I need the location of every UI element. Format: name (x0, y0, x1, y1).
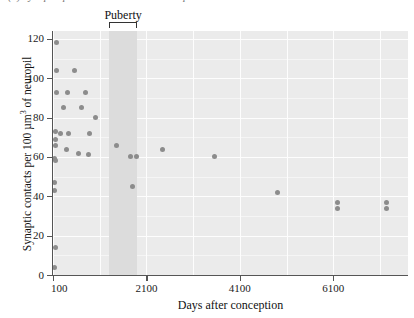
gridline-horizontal-minor (53, 137, 408, 138)
x-axis-tick-label: 2100 (135, 282, 157, 294)
data-point (72, 68, 77, 73)
data-point (212, 154, 217, 159)
x-axis-tick (53, 276, 54, 281)
data-point (83, 90, 88, 95)
y-axis-tick (47, 118, 52, 119)
gridline-vertical (146, 31, 147, 275)
data-point (87, 131, 92, 136)
data-point (54, 90, 59, 95)
y-axis-tick (47, 236, 52, 237)
gridline-vertical (193, 31, 194, 275)
y-axis-tick (47, 196, 52, 197)
gridline-vertical (100, 31, 101, 275)
gridline-vertical (380, 31, 381, 275)
plot-area (53, 31, 408, 275)
gridline-horizontal-minor (53, 255, 408, 256)
y-axis-tick (47, 39, 52, 40)
x-axis-tick (146, 276, 147, 281)
data-point (54, 40, 59, 45)
puberty-label: Puberty (104, 8, 141, 23)
y-axis-tick-label: 20 (4, 230, 44, 241)
data-point (335, 206, 340, 211)
data-point (53, 143, 58, 148)
data-point (58, 131, 63, 136)
x-axis-tick (333, 276, 334, 281)
gridline-vertical (333, 31, 334, 275)
data-point (54, 68, 59, 73)
data-point (160, 147, 165, 152)
y-axis-tick (47, 157, 52, 158)
data-point (53, 245, 58, 250)
gridline-horizontal-minor (53, 59, 408, 60)
data-point (76, 151, 81, 156)
data-point (93, 115, 98, 120)
data-point (384, 206, 389, 211)
scatter-plot-figure: Synaptic contacts per 100 µm3 of neuropi… (0, 0, 414, 318)
x-axis-tick (240, 276, 241, 281)
gridline-horizontal (53, 196, 408, 197)
gridline-horizontal (53, 236, 408, 237)
y-axis-tick-label: 120 (4, 33, 44, 44)
gridline-horizontal (53, 118, 408, 119)
data-point (114, 143, 119, 148)
y-axis-tick (47, 78, 52, 79)
y-axis-tick-label: 0 (4, 270, 44, 281)
gridline-horizontal-minor (53, 216, 408, 217)
y-axis-tick-label: 40 (4, 191, 44, 202)
data-point (384, 200, 389, 205)
gridline-horizontal (53, 39, 408, 40)
puberty-bracket (109, 22, 137, 28)
y-axis-tick-label: 60 (4, 151, 44, 162)
data-point (61, 105, 66, 110)
data-point (53, 137, 58, 142)
y-axis-tick (47, 275, 52, 276)
x-axis-tick-label: 100 (51, 282, 68, 294)
data-point (130, 184, 135, 189)
data-point (79, 105, 84, 110)
data-point (335, 200, 340, 205)
y-axis-line (52, 31, 53, 276)
gridline-horizontal-minor (53, 98, 408, 99)
data-point (64, 147, 69, 152)
x-axis-line (52, 275, 408, 276)
gridline-horizontal (53, 78, 408, 79)
gridline-horizontal-minor (53, 177, 408, 178)
data-point (65, 90, 70, 95)
x-axis-tick-label: 4100 (229, 282, 251, 294)
x-axis-title: Days after conception (53, 298, 408, 313)
gridline-vertical (240, 31, 241, 275)
data-point (275, 190, 280, 195)
gridline-vertical (287, 31, 288, 275)
data-point (66, 131, 71, 136)
y-axis-tick-label: 100 (4, 73, 44, 84)
x-axis-tick-label: 6100 (322, 282, 344, 294)
gridline-horizontal (53, 157, 408, 158)
y-axis-tick-label: 80 (4, 112, 44, 123)
data-point (53, 158, 58, 163)
puberty-shaded-band (109, 31, 137, 275)
data-point (134, 154, 139, 159)
